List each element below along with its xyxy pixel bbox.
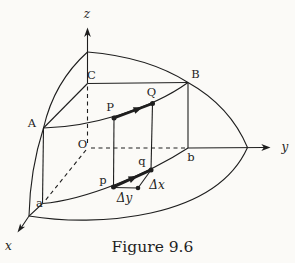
pq-vector-arrowhead (133, 107, 143, 114)
p-vertical-line (114, 118, 115, 187)
label-point-q: q (138, 154, 146, 168)
spherical-octant-figure: z y x C B A O P Q p q a b Δy Δx Figure 9… (0, 0, 295, 263)
label-point-b: b (187, 150, 194, 164)
label-point-A: A (27, 116, 37, 130)
y-axis-label: y (281, 140, 289, 154)
pq-base-vector-arrowhead (128, 176, 138, 183)
label-point-p: p (99, 173, 106, 187)
base-arc (43, 148, 189, 204)
xz-meridian-curve (29, 52, 88, 216)
delta-y-line (114, 188, 139, 189)
label-point-O: O (78, 137, 87, 151)
point-p-dot (111, 185, 116, 190)
point-Q-dot (150, 101, 155, 106)
y-axis-line (188, 148, 265, 149)
x-axis-arrowhead (18, 223, 26, 232)
figure-caption: Figure 9.6 (112, 238, 194, 256)
q-vertical-line (151, 104, 153, 171)
point-q-dot (149, 168, 154, 173)
label-point-C: C (87, 68, 96, 82)
delta-corner-dot (136, 186, 141, 191)
delta-x-label: Δx (148, 178, 165, 192)
z-axis-label: z (83, 7, 91, 21)
label-point-B: B (191, 67, 199, 81)
label-point-Q: Q (147, 85, 156, 99)
point-P-dot (112, 116, 117, 121)
label-point-P: P (106, 100, 114, 114)
a-vertical-line (43, 128, 44, 204)
delta-y-label: Δy (116, 191, 133, 205)
upper-latitude-arc (44, 83, 189, 129)
label-point-a: a (36, 196, 43, 210)
c-to-b-line (88, 83, 189, 84)
pq-vector-line (114, 104, 153, 119)
x-axis-label: x (5, 239, 12, 253)
origin-to-a-dashed-line (45, 150, 87, 202)
